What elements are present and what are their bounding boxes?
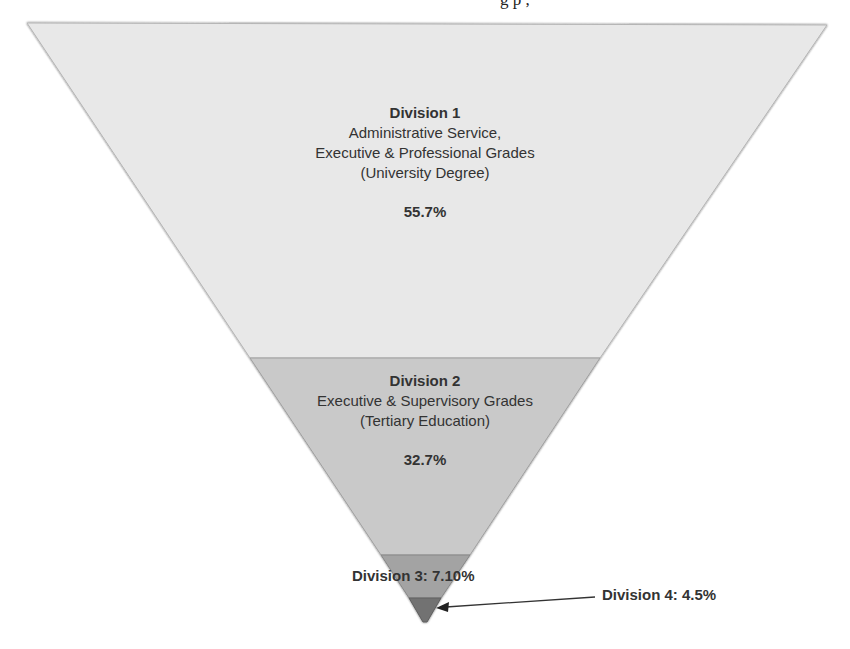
funnel-chart [0, 0, 850, 649]
division-2-desc-line1: Executive & Supervisory Grades [317, 391, 533, 411]
division-2-label: Division 2 Executive & Supervisory Grade… [317, 371, 533, 470]
division-1-title: Division 1 [315, 103, 534, 123]
division-1-label: Division 1 Administrative Service, Execu… [315, 103, 534, 222]
division-1-percentage: 55.7% [315, 202, 534, 222]
division-2-percentage: 32.7% [317, 450, 533, 470]
division-2-desc-line2: (Tertiary Education) [317, 411, 533, 431]
funnel-segment-division-4 [409, 598, 441, 622]
division-2-title: Division 2 [317, 371, 533, 391]
division-4-label: Division 4: 4.5% [602, 586, 716, 603]
division-1-desc-line2: Executive & Professional Grades [315, 143, 534, 163]
division-3-label: Division 3: 7.10% [352, 567, 475, 584]
division-1-desc-line3: (University Degree) [315, 163, 534, 183]
division-1-desc-line1: Administrative Service, [315, 123, 534, 143]
division-4-callout-arrow [436, 597, 595, 612]
